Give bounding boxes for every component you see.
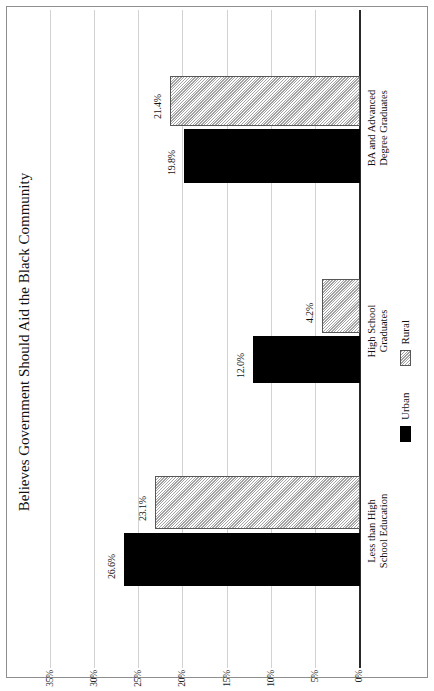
category-label-high-school: High School Graduates: [366, 251, 389, 411]
plot-area: 35% 30% 25% 20% 15% 10% 5% 0% 21.4% 19.8…: [6, 6, 428, 678]
category-line-2: School Education: [378, 451, 390, 611]
bar-urban-less-than-high-school[interactable]: [124, 533, 360, 586]
value-label-urban-ba-advanced: 19.8%: [166, 150, 177, 175]
bar-urban-high-school[interactable]: [253, 336, 360, 383]
legend-item-urban[interactable]: Urban: [399, 393, 411, 443]
category-line-1: Less than High: [366, 451, 378, 611]
tick-label-35: 35%: [45, 670, 55, 691]
category-line-2: Degree Graduates: [378, 48, 390, 208]
value-label-rural-ba-advanced: 21.4%: [152, 94, 163, 119]
bar-chart: 35% 30% 25% 20% 15% 10% 5% 0% 21.4% 19.8…: [6, 6, 428, 678]
value-label-urban-less-than-high-school: 26.6%: [106, 554, 117, 579]
tick-label-10: 10%: [266, 670, 276, 691]
value-label-urban-high-school: 12.0%: [235, 353, 246, 378]
legend-swatch-rural-icon: [400, 351, 411, 367]
category-label-ba-advanced: BA and Advanced Degree Graduates: [366, 48, 389, 208]
tick-label-30: 30%: [89, 670, 99, 691]
chart-legend: Urban Rural: [399, 320, 411, 442]
category-line-1: High School: [366, 251, 378, 411]
bar-rural-ba-advanced[interactable]: [170, 76, 360, 126]
legend-swatch-urban-icon: [400, 426, 411, 442]
tick-label-20: 20%: [177, 670, 187, 691]
value-label-rural-less-than-high-school: 23.1%: [137, 496, 148, 521]
tick-label-25: 25%: [133, 670, 143, 691]
legend-label-urban: Urban: [399, 393, 411, 421]
gridline-35: [50, 10, 51, 668]
category-line-2: Graduates: [378, 251, 390, 411]
bar-rural-high-school[interactable]: [322, 279, 360, 333]
value-label-rural-high-school: 4.2%: [304, 303, 315, 323]
tick-label-15: 15%: [222, 670, 232, 691]
legend-label-rural: Rural: [399, 320, 411, 344]
category-line-1: BA and Advanced: [366, 48, 378, 208]
tick-label-5: 5%: [310, 670, 320, 691]
legend-item-rural[interactable]: Rural: [399, 320, 411, 366]
gridline-30: [94, 10, 95, 668]
bar-urban-ba-advanced[interactable]: [184, 129, 360, 183]
tick-label-0: 0%: [354, 670, 364, 691]
chart-title: Believes Government Should Aid the Black…: [16, 6, 33, 678]
bar-rural-less-than-high-school[interactable]: [155, 476, 360, 529]
category-label-less-than-high-school: Less than High School Education: [366, 451, 389, 611]
